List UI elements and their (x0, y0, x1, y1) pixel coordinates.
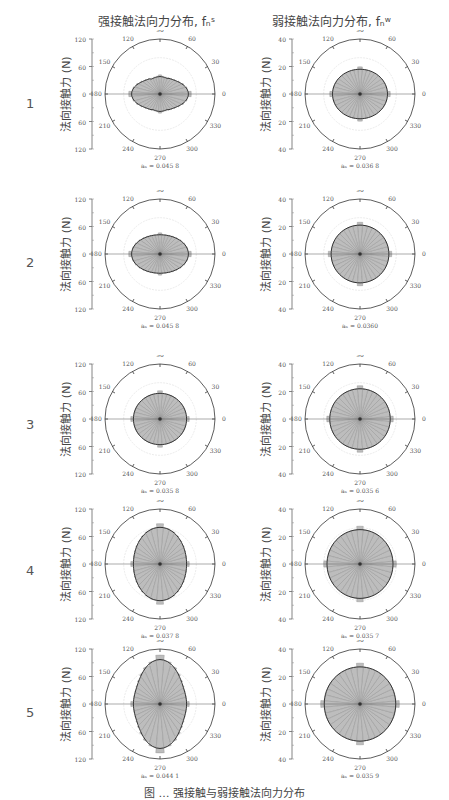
svg-text:330: 330 (410, 447, 422, 454)
svg-text:40: 40 (278, 471, 286, 478)
svg-text:120: 120 (75, 146, 87, 153)
polar-chart-r4-strong: 12060060120法向接触力 (N)03060901201501802102… (40, 500, 240, 650)
svg-text:20: 20 (278, 389, 286, 396)
svg-text:60: 60 (78, 119, 86, 126)
svg-text:210: 210 (99, 732, 111, 739)
svg-text:330: 330 (210, 447, 222, 454)
svg-text:40: 40 (278, 36, 286, 43)
svg-text:120: 120 (75, 756, 87, 763)
svg-text:270: 270 (154, 314, 166, 321)
svg-text:0: 0 (422, 700, 426, 707)
svg-text:270: 270 (154, 764, 166, 771)
svg-text:270: 270 (354, 764, 366, 771)
polar-chart-r2-strong: 12060060120法向接触力 (N)03060901201501802102… (40, 190, 240, 340)
svg-text:150: 150 (299, 668, 311, 675)
svg-text:90: 90 (356, 640, 364, 643)
svg-text:330: 330 (210, 592, 222, 599)
svg-text:180: 180 (90, 700, 102, 707)
svg-text:0: 0 (282, 416, 286, 423)
svg-text:180: 180 (290, 90, 302, 97)
svg-text:150: 150 (299, 528, 311, 535)
svg-text:20: 20 (278, 119, 286, 126)
radial-axis-label: 法向接触力 (N) (59, 216, 73, 291)
svg-text:90: 90 (156, 190, 164, 193)
svg-text:30: 30 (212, 528, 220, 535)
svg-text:40: 40 (278, 616, 286, 623)
svg-text:120: 120 (322, 645, 334, 652)
svg-text:180: 180 (90, 90, 102, 97)
svg-text:20: 20 (278, 279, 286, 286)
polar-chart-r4-weak: 402002040法向接触力 (N)0306090120150180210240… (240, 500, 440, 650)
svg-text:40: 40 (278, 146, 286, 153)
svg-text:210: 210 (99, 447, 111, 454)
polar-chart-r3-strong: 12060060120法向接触力 (N)03060901201501802102… (40, 355, 240, 505)
svg-text:120: 120 (122, 505, 134, 512)
svg-text:0: 0 (222, 560, 226, 567)
svg-text:210: 210 (299, 282, 311, 289)
anisotropy-label: aₙ = 0.035 9 (341, 772, 379, 779)
svg-text:0: 0 (282, 251, 286, 258)
polar-chart-r5-weak: 402002040法向接触力 (N)0306090120150180210240… (240, 640, 440, 790)
svg-text:0: 0 (82, 91, 86, 98)
svg-text:90: 90 (356, 190, 364, 193)
svg-text:120: 120 (75, 616, 87, 623)
svg-text:240: 240 (122, 470, 134, 477)
svg-text:330: 330 (410, 282, 422, 289)
svg-text:60: 60 (78, 279, 86, 286)
svg-text:60: 60 (78, 674, 86, 681)
polar-chart-r1-weak: 402002040法向接触力 (N)0306090120150180210240… (240, 30, 440, 180)
svg-text:60: 60 (78, 389, 86, 396)
svg-text:330: 330 (410, 732, 422, 739)
svg-text:240: 240 (322, 470, 334, 477)
svg-text:300: 300 (186, 755, 198, 762)
svg-text:60: 60 (188, 360, 196, 367)
svg-text:180: 180 (290, 250, 302, 257)
svg-text:20: 20 (278, 589, 286, 596)
svg-text:20: 20 (278, 224, 286, 231)
svg-text:40: 40 (278, 756, 286, 763)
svg-text:210: 210 (99, 592, 111, 599)
polar-chart-r3-weak: 402002040法向接触力 (N)0306090120150180210240… (240, 355, 440, 505)
svg-text:120: 120 (75, 196, 87, 203)
row-label-4: 4 (26, 563, 34, 578)
svg-text:120: 120 (75, 471, 87, 478)
svg-text:40: 40 (278, 361, 286, 368)
polar-chart-r5-strong: 12060060120法向接触力 (N)03060901201501802102… (40, 640, 240, 790)
svg-text:60: 60 (78, 729, 86, 736)
svg-text:0: 0 (282, 91, 286, 98)
svg-text:40: 40 (278, 506, 286, 513)
svg-text:120: 120 (75, 306, 87, 313)
svg-text:300: 300 (186, 145, 198, 152)
svg-text:60: 60 (388, 645, 396, 652)
svg-text:120: 120 (322, 35, 334, 42)
svg-text:150: 150 (99, 383, 111, 390)
anisotropy-label: aₙ = 0.045 8 (141, 162, 179, 169)
svg-text:90: 90 (156, 355, 164, 358)
svg-text:240: 240 (322, 615, 334, 622)
svg-text:210: 210 (299, 447, 311, 454)
anisotropy-label: aₙ = 0.036 8 (341, 162, 379, 169)
svg-text:240: 240 (122, 145, 134, 152)
svg-text:210: 210 (299, 732, 311, 739)
svg-text:0: 0 (82, 561, 86, 568)
svg-text:180: 180 (90, 415, 102, 422)
svg-text:330: 330 (210, 122, 222, 129)
radial-axis-label: 法向接触力 (N) (59, 381, 73, 456)
svg-text:0: 0 (282, 561, 286, 568)
svg-text:30: 30 (212, 218, 220, 225)
svg-text:180: 180 (90, 560, 102, 567)
svg-text:270: 270 (154, 624, 166, 631)
svg-text:330: 330 (410, 592, 422, 599)
svg-text:120: 120 (322, 505, 334, 512)
svg-text:150: 150 (299, 383, 311, 390)
svg-text:120: 120 (75, 506, 87, 513)
svg-text:180: 180 (90, 250, 102, 257)
svg-text:30: 30 (212, 58, 220, 65)
svg-text:270: 270 (154, 479, 166, 486)
svg-text:30: 30 (412, 218, 420, 225)
radial-axis-label: 法向接触力 (N) (259, 526, 273, 601)
svg-text:210: 210 (99, 282, 111, 289)
anisotropy-label: aₙ = 0.037 8 (141, 632, 179, 639)
svg-text:300: 300 (186, 615, 198, 622)
svg-text:300: 300 (386, 615, 398, 622)
